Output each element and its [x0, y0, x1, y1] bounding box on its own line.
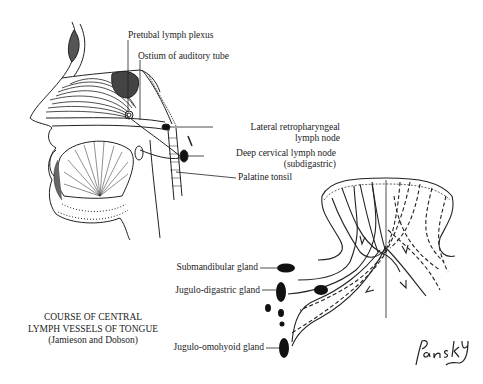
label-jugulo-digastric-gland: Jugulo-digastric gland — [158, 285, 260, 296]
caption-line-3: (Jamieson and Dobson) — [18, 335, 168, 347]
label-pretubal-lymph-plexus: Pretubal lymph plexus — [128, 30, 214, 41]
caption-line-2: LYMPH VESSELS OF TONGUE — [18, 324, 168, 336]
tongue-lymph-nodes — [265, 264, 328, 359]
label-lateral-retropharyngeal-line1: Lateral retropharyngeal — [214, 122, 340, 133]
label-lateral-retropharyngeal-node: Lateral retropharyngeal lymph node — [214, 122, 340, 144]
artist-signature-icon — [410, 335, 470, 369]
label-deep-cervical-node: Deep cervical lymph node (subdigastric) — [205, 148, 336, 170]
label-ostium-auditory-tube: Ostium of auditory tube — [138, 51, 229, 62]
tongue-lymph-diagram — [288, 178, 455, 346]
label-palatine-tonsil: Palatine tonsil — [238, 172, 292, 183]
label-lateral-retropharyngeal-line2: lymph node — [214, 133, 340, 144]
label-deep-cervical-line2: (subdigastric) — [205, 159, 336, 170]
label-deep-cervical-line1: Deep cervical lymph node — [205, 148, 336, 159]
caption-line-1: COURSE OF CENTRAL — [18, 312, 168, 324]
label-jugulo-omohyoid-gland: Jugulo-omohyoid gland — [160, 342, 264, 353]
figure-caption: COURSE OF CENTRAL LYMPH VESSELS OF TONGU… — [18, 312, 168, 347]
label-submandibular-gland: Submandibular gland — [158, 262, 258, 273]
